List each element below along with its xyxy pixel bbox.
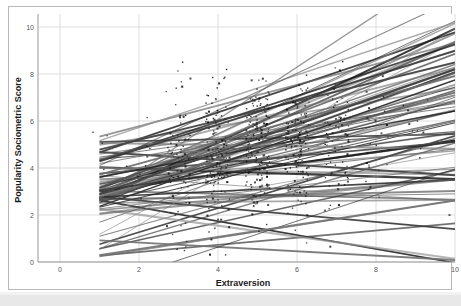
data-point — [184, 138, 186, 140]
data-point — [303, 190, 304, 191]
data-point — [223, 147, 224, 148]
data-point — [263, 123, 265, 125]
data-point — [225, 118, 226, 119]
data-point — [294, 146, 295, 147]
data-point — [256, 179, 258, 181]
data-point — [346, 134, 348, 136]
data-point — [265, 98, 266, 99]
data-point — [262, 78, 264, 80]
data-point — [305, 131, 306, 132]
data-point — [259, 164, 260, 165]
data-point — [245, 184, 246, 185]
data-point — [254, 160, 255, 161]
data-point — [347, 102, 348, 103]
data-point — [348, 139, 349, 140]
data-point — [217, 219, 218, 220]
data-point — [254, 155, 255, 156]
data-point — [226, 152, 227, 153]
data-point — [213, 185, 214, 186]
page-bottom-band — [0, 295, 461, 306]
data-point — [328, 208, 329, 209]
data-point — [299, 132, 300, 133]
data-point — [293, 194, 294, 195]
data-point — [417, 120, 418, 121]
data-point — [328, 155, 329, 156]
data-point — [305, 203, 306, 204]
data-point — [259, 186, 261, 188]
data-point — [255, 116, 256, 117]
data-point — [419, 157, 420, 158]
data-point — [208, 95, 209, 96]
data-point — [303, 177, 304, 178]
data-point — [338, 127, 339, 128]
data-point — [188, 197, 189, 198]
data-point — [181, 187, 182, 188]
data-point — [368, 166, 369, 167]
data-point — [306, 214, 308, 216]
data-point — [300, 120, 302, 122]
data-point — [335, 125, 336, 126]
data-point — [256, 201, 258, 203]
data-point — [180, 152, 181, 153]
data-point — [250, 137, 251, 138]
data-point — [184, 153, 186, 155]
x-tick-label: 2 — [137, 266, 141, 273]
data-point — [170, 153, 171, 154]
data-point — [344, 117, 345, 118]
data-point — [217, 177, 218, 178]
data-point — [340, 117, 341, 118]
data-point — [223, 144, 225, 146]
data-point — [325, 177, 326, 178]
data-point — [216, 166, 217, 167]
data-point — [176, 87, 177, 88]
data-point — [289, 144, 290, 145]
data-point — [186, 241, 187, 242]
data-point — [177, 211, 178, 212]
data-point — [300, 142, 301, 143]
data-point — [225, 107, 226, 108]
data-point — [189, 78, 191, 80]
data-point — [305, 136, 306, 137]
data-point — [207, 202, 208, 203]
data-point — [369, 143, 370, 144]
data-point — [246, 161, 247, 162]
data-point — [296, 166, 297, 167]
data-point — [268, 173, 269, 174]
data-point — [126, 166, 127, 167]
data-point — [268, 156, 269, 157]
data-point — [184, 163, 185, 164]
data-point — [219, 126, 221, 128]
data-point — [299, 143, 300, 144]
data-point — [186, 202, 187, 203]
data-point — [299, 186, 300, 187]
data-point — [286, 122, 287, 123]
data-point — [258, 151, 259, 152]
data-point — [412, 130, 413, 131]
data-point — [248, 124, 249, 125]
data-point — [245, 171, 246, 172]
data-point — [292, 129, 294, 131]
data-point — [287, 171, 288, 172]
data-point — [221, 153, 222, 154]
data-point — [225, 160, 226, 161]
data-point — [368, 107, 370, 109]
data-point — [253, 201, 255, 203]
data-point — [308, 166, 309, 167]
data-point — [245, 129, 247, 131]
data-point — [180, 225, 181, 226]
data-point — [207, 121, 209, 123]
data-point — [167, 147, 168, 148]
data-point — [287, 159, 288, 160]
data-point — [207, 176, 208, 177]
data-point — [103, 169, 104, 170]
data-point — [172, 195, 174, 197]
data-point — [255, 128, 256, 129]
data-point — [215, 115, 216, 116]
data-point — [338, 116, 340, 118]
data-point — [331, 172, 333, 174]
data-point — [334, 147, 335, 148]
data-point — [256, 128, 257, 129]
data-point — [267, 99, 268, 100]
data-point — [218, 182, 219, 183]
data-point — [293, 154, 295, 156]
